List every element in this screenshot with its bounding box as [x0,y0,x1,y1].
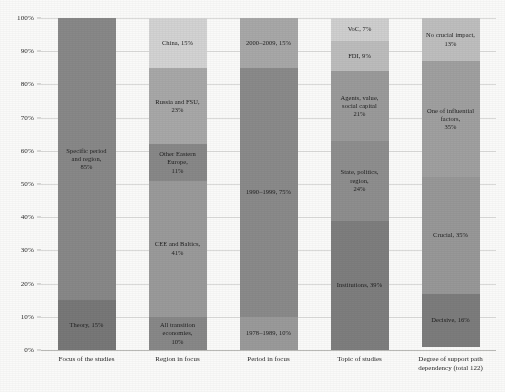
column-segment[interactable]: One of influential factors, 35% [422,61,480,177]
segment-data-label: CEE and Baltics, 41% [153,240,202,257]
plot-area: Specific period and region, 85%Theory, 1… [41,18,496,350]
segment-data-label: State, politics, region, 24% [331,168,389,193]
x-axis-category-labels: Focus of the studiesRegion in focusPerio… [41,355,496,389]
column-segment[interactable]: 2000–2009, 15% [240,18,298,68]
column-segment[interactable]: CEE and Baltics, 41% [149,181,207,317]
segment-data-label: Russia and FSU, 23% [149,98,207,115]
column-segment[interactable]: Institutions, 39% [331,221,389,350]
column-segment[interactable]: China, 15% [149,18,207,68]
column-segment[interactable]: Russia and FSU, 23% [149,68,207,144]
stacked-column[interactable]: China, 15%Russia and FSU, 23%Other Easte… [149,18,207,350]
gridline-0 [41,350,496,351]
x-category-label: Topic of studies [314,355,405,364]
x-category-label: Degree of support path dependency (total… [405,355,496,374]
segment-data-label: Decisive, 16% [429,316,472,324]
column-segment[interactable]: State, politics, region, 24% [331,141,389,221]
column-segment[interactable]: Theory, 15% [58,300,116,350]
column-segment[interactable]: Specific period and region, 85% [58,18,116,300]
stacked-column[interactable]: VoC, 7%FDI, 9%Agents, value, social capi… [331,18,389,350]
segment-data-label: Agents, value, social capital 21% [338,94,380,119]
y-tick-label-60: 60% [21,147,34,155]
segment-data-label: VoC, 7% [346,25,374,33]
segment-data-label: Crucial, 35% [431,231,470,239]
y-tick-label-70: 70% [21,114,34,122]
y-tick-label-90: 90% [21,47,34,55]
segment-data-label: China, 15% [160,39,195,47]
stacked-column[interactable]: 2000–2009, 15%1990–1999, 75%1978–1989, 1… [240,18,298,350]
y-tick-label-0: 0% [24,346,34,354]
column-segment[interactable]: FDI, 9% [331,41,389,71]
column-segment[interactable]: Crucial, 35% [422,177,480,293]
y-tick-label-50: 50% [21,180,34,188]
x-category-label: Period in focus [223,355,314,364]
segment-data-label: 2000–2009, 15% [244,39,293,47]
column-segment[interactable]: Agents, value, social capital 21% [331,71,389,141]
segment-data-label: 1990–1999, 75% [244,188,293,196]
column-segment[interactable]: All transition economies, 10% [149,317,207,350]
y-tick-label-20: 20% [21,280,34,288]
stacked-column[interactable]: Specific period and region, 85%Theory, 1… [58,18,116,350]
column-segment[interactable]: 1978–1989, 10% [240,317,298,350]
y-tick-label-30: 30% [21,246,34,254]
segment-data-label: 1978–1989, 10% [244,329,293,337]
x-category-label: Focus of the studies [41,355,132,364]
column-segment[interactable]: VoC, 7% [331,18,389,41]
segment-data-label: Institutions, 39% [335,281,384,289]
column-segment[interactable]: 1990–1999, 75% [240,68,298,317]
segment-data-label: Other Eastern Europe, 11% [149,150,207,175]
y-tick-label-40: 40% [21,213,34,221]
y-tick-label-10: 10% [21,313,34,321]
segment-data-label: No crucial impact, 13% [424,31,477,48]
column-segment[interactable]: Decisive, 16% [422,294,480,347]
column-segment[interactable]: Other Eastern Europe, 11% [149,144,207,181]
x-category-label: Region in focus [132,355,223,364]
segment-data-label: FDI, 9% [346,52,373,60]
y-tick-label-80: 80% [21,80,34,88]
stacked-column[interactable]: No crucial impact, 13%One of influential… [422,18,480,350]
segment-data-label: Specific period and region, 85% [64,147,108,172]
column-segment[interactable]: No crucial impact, 13% [422,18,480,61]
chart-page: 100%90%80%70%60%50%40%30%20%10%0% Specif… [0,0,505,392]
segment-data-label: All transition economies, 10% [149,321,207,346]
y-axis: 100%90%80%70%60%50%40%30%20%10%0% [0,18,41,350]
y-tick-label-100: 100% [17,14,34,22]
segment-data-label: One of influential factors, 35% [425,107,476,132]
segment-data-label: Theory, 15% [67,321,105,329]
